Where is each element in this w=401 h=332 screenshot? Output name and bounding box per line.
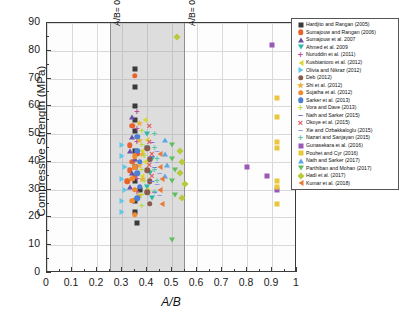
legend-label: Ahmed et al. 2009 — [306, 44, 348, 51]
legend-item-5[interactable]: Kusbiantoro et al. (2012) — [294, 59, 396, 67]
data-point: + — [150, 131, 159, 138]
legend-item-19[interactable]: Parthiban and Mohan (2017) — [294, 164, 396, 172]
y-tick-minor — [46, 230, 49, 231]
legend-item-14[interactable]: –Xie and Ozbakkaloglu (2015) — [294, 127, 396, 135]
legend-marker-icon — [295, 89, 306, 96]
data-point — [129, 176, 135, 182]
gridline-vertical — [272, 23, 273, 271]
legend-item-21[interactable]: Kumar et al. (2018) — [294, 179, 396, 187]
x-tick — [171, 267, 172, 272]
x-tick-minor — [134, 269, 135, 272]
legend-item-10[interactable]: Sarker et al. (2013) — [294, 96, 396, 104]
x-tick — [96, 267, 97, 272]
legend-marker-icon — [295, 157, 306, 164]
y-tick-label: 0 — [6, 265, 40, 277]
y-tick-minor — [46, 64, 49, 65]
x-tick-minor — [59, 269, 60, 272]
data-point — [162, 137, 168, 142]
data-point — [169, 237, 175, 242]
legend-marker-icon — [295, 29, 306, 36]
y-tick — [46, 133, 51, 134]
data-point — [245, 165, 250, 170]
y-tick-label: 60 — [6, 98, 40, 110]
gridline-vertical — [197, 23, 198, 271]
data-point — [160, 201, 165, 207]
x-tick-minor — [109, 269, 110, 272]
legend-item-13[interactable]: ×Okoye et al. (2015) — [294, 119, 396, 127]
legend-item-4[interactable]: +Nuruddin et al. (2011) — [294, 51, 396, 59]
legend-label: Parthiban and Mohan (2017) — [306, 165, 372, 172]
legend-marker-icon: ★ — [295, 82, 306, 89]
y-tick — [46, 216, 51, 217]
data-point — [120, 198, 125, 204]
legend-marker-icon: + — [295, 51, 306, 58]
legend-item-11[interactable]: +Vora and Dave (2013) — [294, 104, 396, 112]
gridline-vertical — [247, 23, 248, 271]
legend-item-18[interactable]: Nath and Sarker (2017) — [294, 157, 396, 165]
legend-label: Shi et al. (2012) — [306, 82, 342, 89]
legend-item-7[interactable]: Deb (2012) — [294, 74, 396, 82]
y-tick-minor — [46, 91, 49, 92]
data-point — [157, 164, 162, 170]
legend-item-0[interactable]: Hardjito and Rangan (2005) — [294, 21, 396, 29]
y-tick-label: 10 — [6, 237, 40, 249]
legend-item-8[interactable]: ★Shi et al. (2012) — [294, 81, 396, 89]
x-tick — [271, 267, 272, 272]
y-tick-minor — [46, 36, 49, 37]
x-tick — [221, 267, 222, 272]
data-point — [270, 43, 275, 48]
x-tick-minor — [184, 269, 185, 272]
legend-label: Olivia and Nikraz (2012) — [306, 67, 361, 74]
legend-label: Sarker et al. (2013) — [306, 97, 350, 104]
data-point — [122, 164, 127, 170]
y-tick — [46, 272, 51, 273]
legend-label: Okoye et al. (2015) — [306, 119, 350, 126]
y-tick — [46, 105, 51, 106]
legend-item-3[interactable]: Ahmed et al. 2009 — [294, 44, 396, 52]
data-point — [132, 154, 138, 160]
y-tick-minor — [46, 175, 49, 176]
x-tick-minor — [259, 269, 260, 272]
band-annotation-0: A/B= 0.25 — [112, 0, 122, 26]
legend-marker-icon — [295, 36, 306, 43]
y-tick-label: 30 — [6, 182, 40, 194]
data-point: + — [138, 203, 147, 210]
x-axis-title: A/B — [46, 295, 296, 309]
data-point — [120, 142, 125, 148]
legend-marker-icon — [295, 180, 306, 187]
gridline-vertical — [97, 23, 98, 271]
x-tick-minor — [284, 269, 285, 272]
x-tick — [246, 267, 247, 272]
data-point — [132, 212, 138, 218]
data-point — [120, 209, 125, 215]
legend[interactable]: Hardjito and Rangan (2005)Sumajouw and R… — [291, 18, 399, 190]
legend-item-1[interactable]: Sumajouw and Rangan (2006) — [294, 29, 396, 37]
data-point — [169, 143, 175, 148]
data-point: + — [138, 192, 147, 199]
legend-item-12[interactable]: –Nath and Sarker (2015) — [294, 112, 396, 120]
legend-item-2[interactable]: Sumajouw et al. 2007 — [294, 36, 396, 44]
data-point — [275, 146, 280, 151]
data-point — [122, 187, 127, 193]
y-tick — [46, 22, 51, 23]
y-tick — [46, 189, 51, 190]
y-tick — [46, 50, 51, 51]
data-point — [135, 221, 140, 226]
legend-label: Kumar et al. (2018) — [306, 180, 350, 187]
x-tick — [146, 267, 147, 272]
legend-label: Xie and Ozbakkaloglu (2015) — [306, 127, 372, 134]
gridline-vertical — [72, 23, 73, 271]
legend-item-6[interactable]: Olivia and Nikraz (2012) — [294, 66, 396, 74]
data-point — [132, 84, 137, 89]
legend-marker-icon — [295, 67, 306, 74]
legend-item-16[interactable]: Gunasekara et al. (2016) — [294, 142, 396, 150]
y-tick — [46, 161, 51, 162]
data-point — [127, 142, 133, 148]
legend-item-15[interactable]: +Nazari and Sanjayan (2015) — [294, 134, 396, 142]
legend-marker-icon — [295, 172, 306, 179]
legend-item-9[interactable]: Sujatha et al. (2012) — [294, 89, 396, 97]
legend-item-17[interactable]: Pouhet and Cyr (2016) — [294, 149, 396, 157]
legend-item-20[interactable]: Hadi et al. (2017) — [294, 172, 396, 180]
data-point — [275, 201, 280, 206]
plot-area: +++++++★★★★★★+++++++–––––×××××–––––+++++… — [46, 22, 296, 272]
